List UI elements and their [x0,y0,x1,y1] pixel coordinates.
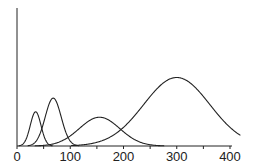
x-tick-labels: 0100200300400 [13,149,240,164]
x-tick-label: 200 [113,149,135,164]
x-tick-label: 300 [166,149,188,164]
x-tick-label: 100 [59,149,81,164]
curves [19,78,241,146]
distribution-chart: 0100200300400 [0,0,255,168]
curve-peak-1 [19,112,53,146]
x-tick-label: 400 [219,149,241,164]
curve-peak-2 [28,98,79,146]
curve-peak-4 [71,78,240,146]
x-tick-label: 0 [13,149,20,164]
